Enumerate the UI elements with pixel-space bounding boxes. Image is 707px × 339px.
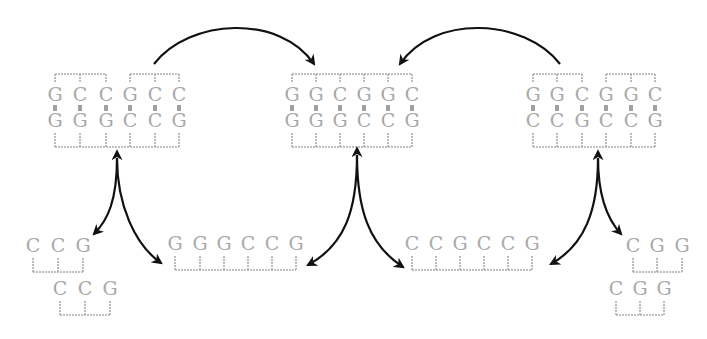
hoogsteen-pair-marker	[629, 105, 633, 111]
top-base: G	[380, 83, 395, 105]
hoogsteen-pair-marker	[386, 105, 390, 111]
single-strand-group: CCGCCGGGGCCGCCGCCGCGGCGG	[26, 232, 690, 315]
bottom-backbone	[55, 133, 179, 147]
strand-base: G	[674, 234, 689, 256]
strand-base: G	[167, 232, 182, 254]
strand-base: C	[51, 234, 66, 256]
strand-base: C	[477, 232, 492, 254]
bottom-base: C	[550, 109, 565, 131]
bottom-base: G	[72, 109, 87, 131]
hoogsteen-pair-marker	[362, 105, 366, 111]
hoogsteen-pair-marker	[338, 105, 342, 111]
strand-base: C	[626, 234, 641, 256]
left-strand-6: GGGCCG	[167, 232, 303, 270]
hoogsteen-pair-marker	[153, 105, 157, 111]
top-base: C	[333, 83, 348, 105]
left-fragment-1: CCG	[26, 234, 91, 272]
strand-base: G	[452, 232, 467, 254]
strand-base: C	[53, 277, 68, 299]
strand-base: C	[405, 232, 420, 254]
top-base: G	[623, 83, 638, 105]
right-to-center-arc-arrow	[400, 28, 560, 64]
bottom-backbone	[292, 133, 412, 147]
strand-base: G	[656, 277, 671, 299]
top-base: G	[525, 83, 540, 105]
hoogsteen-pair-marker	[290, 105, 294, 111]
strand-base: G	[192, 232, 207, 254]
hoogsteen-pair-marker	[555, 105, 559, 111]
strand-base: G	[632, 277, 647, 299]
strand-base: C	[501, 232, 516, 254]
strand-backbone	[60, 301, 110, 315]
hoogsteen-pair-marker	[78, 105, 82, 111]
right-fork-b-arrow	[598, 158, 621, 234]
left-fragment-2: CCG	[53, 277, 118, 315]
center-fork-a-arrow	[308, 155, 357, 265]
strand-base: G	[102, 277, 117, 299]
top-backbone	[292, 74, 412, 83]
hoogsteen-pair-marker	[177, 105, 181, 111]
bottom-base: C	[526, 109, 541, 131]
center-duplex: GGCGGCGGGCCG	[284, 74, 419, 147]
top-backbone	[55, 74, 106, 83]
hoogsteen-pair-marker	[314, 105, 318, 111]
bottom-base: G	[574, 109, 589, 131]
left-fork-b-arrow	[117, 158, 161, 263]
strand-base: G	[649, 234, 664, 256]
hoogsteen-pair-marker	[410, 105, 414, 111]
strand-base: C	[265, 232, 280, 254]
bottom-base: C	[123, 109, 138, 131]
top-base: C	[575, 83, 590, 105]
strand-base: C	[241, 232, 256, 254]
left-to-center-arc-arrow	[154, 28, 314, 64]
right-duplex: GGCGGCCCGCCG	[525, 74, 662, 147]
bottom-base: C	[624, 109, 639, 131]
hoogsteen-pair-marker	[104, 105, 108, 111]
bottom-base: G	[284, 109, 299, 131]
right-fragment-1: CGG	[626, 234, 690, 272]
bottom-base: G	[47, 109, 62, 131]
top-base: G	[308, 83, 323, 105]
top-base: G	[284, 83, 299, 105]
strand-backbone	[175, 256, 296, 270]
strand-backbone	[33, 258, 83, 272]
hoogsteen-pair-marker	[604, 105, 608, 111]
bottom-base: G	[332, 109, 347, 131]
top-base: C	[172, 83, 187, 105]
bottom-base: C	[148, 109, 163, 131]
top-base: C	[99, 83, 114, 105]
top-backbone	[533, 74, 582, 83]
top-base: G	[47, 83, 62, 105]
bottom-base: G	[308, 109, 323, 131]
duplex-group: GCCGCCGGGCCGGGCGGCGGGCCGGGCGGCCCGCCG	[47, 74, 662, 147]
top-base: C	[648, 83, 663, 105]
strand-base: C	[429, 232, 444, 254]
top-base: G	[549, 83, 564, 105]
strand-base: C	[26, 234, 41, 256]
bottom-base: C	[357, 109, 372, 131]
bottom-base: C	[381, 109, 396, 131]
hoogsteen-pair-marker	[653, 105, 657, 111]
diagram-canvas: GCCGCCGGGCCGGGCGGCGGGCCGGGCGGCCCGCCG CCG…	[0, 0, 707, 339]
bottom-base: G	[171, 109, 186, 131]
right-strand-6: CCGCCG	[405, 232, 540, 270]
hoogsteen-pair-marker	[128, 105, 132, 111]
top-base: G	[598, 83, 613, 105]
strand-backbone	[633, 258, 682, 272]
bottom-backbone	[533, 133, 655, 147]
top-backbone	[606, 74, 655, 83]
top-base: C	[148, 83, 163, 105]
strand-base: C	[609, 277, 624, 299]
top-base: C	[405, 83, 420, 105]
bottom-base: G	[404, 109, 419, 131]
hoogsteen-pair-marker	[53, 105, 57, 111]
bottom-base: G	[647, 109, 662, 131]
hoogsteen-pair-marker	[531, 105, 535, 111]
bottom-base: G	[98, 109, 113, 131]
top-base: G	[356, 83, 371, 105]
right-fork-a-arrow	[551, 158, 598, 264]
strand-base: G	[216, 232, 231, 254]
left-fork-a-arrow	[94, 158, 117, 234]
strand-base: C	[78, 277, 93, 299]
strand-base: G	[75, 234, 90, 256]
